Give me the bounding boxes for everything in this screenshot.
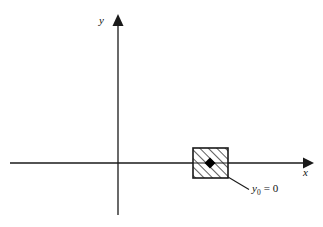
callout-subscript: 0 <box>257 188 261 197</box>
hatched-region <box>193 148 228 178</box>
callout-relation: = <box>264 182 270 194</box>
x-axis-label: x <box>302 166 308 178</box>
y-axis-label: y <box>98 14 104 26</box>
callout-value: 0 <box>273 182 279 194</box>
coordinate-axes-figure: x y y0=0 <box>0 0 323 227</box>
figure-canvas: x y y0=0 <box>0 0 323 227</box>
